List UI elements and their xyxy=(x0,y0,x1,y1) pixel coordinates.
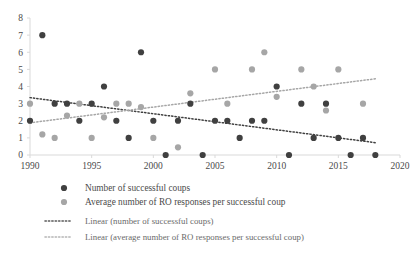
point-ro-responses xyxy=(274,94,280,100)
point-coups xyxy=(113,118,119,124)
point-ro-responses xyxy=(261,49,267,55)
x-tick-label: 2015 xyxy=(329,161,348,171)
point-ro-responses xyxy=(76,101,82,107)
point-coups xyxy=(175,118,181,124)
point-ro-responses xyxy=(27,101,33,107)
x-axis-tick-labels: 1990199520002005201020152020 xyxy=(21,161,410,171)
y-tick-label: 7 xyxy=(18,31,23,41)
point-coups xyxy=(274,83,280,89)
y-tick-label: 5 xyxy=(18,65,23,75)
chart-axes xyxy=(27,18,400,158)
legend-marker-circle xyxy=(61,199,67,205)
y-axis-tick-labels: 012345678 xyxy=(18,13,23,160)
point-coups xyxy=(360,135,366,141)
point-coups xyxy=(138,49,144,55)
y-tick-label: 6 xyxy=(18,48,23,58)
trendline-ro-responses xyxy=(30,79,375,123)
point-ro-responses xyxy=(212,66,218,72)
point-coups xyxy=(76,118,82,124)
point-ro-responses xyxy=(311,83,317,89)
legend-marker-circle xyxy=(61,185,67,191)
point-coups xyxy=(52,101,58,107)
point-coups xyxy=(224,118,230,124)
point-coups xyxy=(348,152,354,158)
x-tick-label: 2020 xyxy=(391,161,410,171)
point-coups xyxy=(335,135,341,141)
legend-label-text: Linear (number of successful coups) xyxy=(85,216,214,226)
point-coups xyxy=(126,135,132,141)
point-ro-responses xyxy=(52,135,58,141)
point-coups xyxy=(163,152,169,158)
point-ro-responses xyxy=(113,101,119,107)
legend-label-text: Number of successful coups xyxy=(85,183,190,193)
point-coups xyxy=(298,101,304,107)
y-tick-label: 2 xyxy=(18,116,23,126)
y-tick-label: 0 xyxy=(18,150,23,160)
point-ro-responses xyxy=(298,66,304,72)
point-ro-responses xyxy=(126,101,132,107)
y-tick-label: 8 xyxy=(18,13,23,23)
x-tick-label: 2010 xyxy=(267,161,286,171)
point-coups xyxy=(39,32,45,38)
point-ro-responses xyxy=(138,104,144,110)
point-coups xyxy=(200,152,206,158)
point-ro-responses xyxy=(360,101,366,107)
y-tick-label: 3 xyxy=(18,99,23,109)
point-coups xyxy=(249,118,255,124)
point-ro-responses xyxy=(335,66,341,72)
point-coups xyxy=(187,101,193,107)
point-coups xyxy=(372,152,378,158)
x-tick-label: 2000 xyxy=(144,161,163,171)
scatter-chart: 012345678 1990199520002005201020152020 N… xyxy=(0,0,411,259)
point-ro-responses xyxy=(150,135,156,141)
y-tick-label: 1 xyxy=(18,133,23,143)
point-coups xyxy=(323,101,329,107)
y-tick-label: 4 xyxy=(18,82,23,92)
point-coups xyxy=(89,101,95,107)
point-ro-responses xyxy=(175,144,181,150)
x-tick-label: 1990 xyxy=(21,161,40,171)
point-ro-responses xyxy=(224,101,230,107)
point-coups xyxy=(101,83,107,89)
point-ro-responses xyxy=(323,107,329,113)
point-ro-responses xyxy=(249,66,255,72)
point-coups xyxy=(311,135,317,141)
point-coups xyxy=(261,118,267,124)
chart-legend: Number of successful coupsAverage number… xyxy=(45,183,304,242)
point-coups xyxy=(27,118,33,124)
point-ro-responses xyxy=(39,131,45,137)
point-coups xyxy=(150,118,156,124)
point-coups xyxy=(237,135,243,141)
legend-label-text: Average number of RO responses per succe… xyxy=(85,197,286,207)
point-coups xyxy=(212,118,218,124)
point-ro-responses xyxy=(64,113,70,119)
point-coups xyxy=(64,101,70,107)
point-ro-responses xyxy=(89,135,95,141)
point-ro-responses xyxy=(187,90,193,96)
data-points xyxy=(27,32,379,158)
point-coups xyxy=(286,152,292,158)
x-tick-label: 2005 xyxy=(206,161,225,171)
legend-label-text: Linear (average number of RO responses p… xyxy=(85,232,304,242)
chart-container: 012345678 1990199520002005201020152020 N… xyxy=(0,0,411,259)
point-ro-responses xyxy=(101,114,107,120)
x-tick-label: 1995 xyxy=(82,161,101,171)
